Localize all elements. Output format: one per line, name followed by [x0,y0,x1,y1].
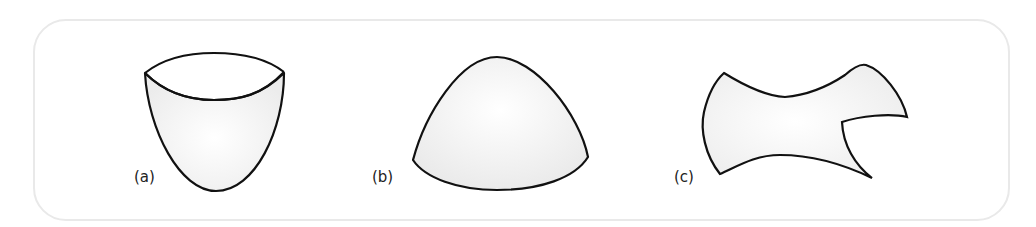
panel-a-bowl [145,53,284,191]
panel-b-label: (b) [372,168,393,186]
panel-c-label: (c) [674,168,694,186]
panel-c-patch [703,65,907,178]
panel-a-label: (a) [134,168,155,186]
bowl-rim-back [145,53,284,73]
bowl-body [145,73,284,191]
panel-b-dome [413,57,588,190]
figure-canvas [0,0,1036,227]
